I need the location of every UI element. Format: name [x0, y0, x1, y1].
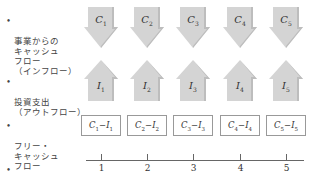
- subscript: 2: [149, 20, 153, 27]
- bullet: •: [6, 165, 11, 173]
- free-cash-flow-box: C4−I4: [220, 115, 260, 136]
- free-cash-flow-box: C1−I1: [81, 115, 121, 136]
- subscript: 5: [288, 20, 292, 27]
- subscript: 5: [286, 86, 290, 93]
- symbol: C: [187, 14, 195, 25]
- subscript: 1: [103, 20, 107, 27]
- row-label-time: • 時点（t）: [6, 155, 53, 173]
- symbol: C: [141, 14, 149, 25]
- subscript: 2: [156, 126, 160, 132]
- bullet: •: [6, 121, 11, 131]
- subscript: 5: [295, 126, 299, 132]
- outflow-symbol: I3: [173, 80, 213, 93]
- outflow-symbol: I5: [266, 80, 306, 93]
- timeline-tick-label: 2: [142, 163, 154, 173]
- subscript: 3: [193, 86, 197, 93]
- timeline-axis: [86, 160, 304, 161]
- subscript: 1: [110, 126, 114, 132]
- timeline-tick-label: 3: [188, 163, 200, 173]
- bullet: •: [6, 16, 11, 26]
- inflow-symbol: C5: [266, 14, 306, 27]
- outflow-symbol: I4: [220, 80, 260, 93]
- subscript: 2: [147, 86, 151, 93]
- subscript: 4: [240, 86, 244, 93]
- outflow-symbol: I2: [127, 80, 167, 93]
- outflow-symbol: I1: [81, 80, 121, 93]
- subscript: 3: [202, 126, 206, 132]
- inflow-symbol: C4: [220, 14, 260, 27]
- free-cash-flow-box: C3−I3: [173, 115, 213, 136]
- symbol: C: [95, 14, 103, 25]
- symbol: C: [234, 14, 242, 25]
- timeline-tick-label: 4: [235, 163, 247, 173]
- subscript: 1: [101, 86, 105, 93]
- inflow-symbol: C2: [127, 14, 167, 27]
- subscript: 4: [242, 20, 246, 27]
- subscript: 3: [195, 20, 199, 27]
- inflow-symbol: C3: [173, 14, 213, 27]
- free-cash-flow-box: C5−I5: [266, 115, 306, 136]
- bullet: •: [6, 77, 11, 87]
- free-cash-flow-box: C2−I2: [127, 115, 167, 136]
- timeline-tick-label: 5: [281, 163, 293, 173]
- symbol: C: [280, 14, 288, 25]
- subscript: 4: [249, 126, 253, 132]
- inflow-symbol: C1: [81, 14, 121, 27]
- timeline-tick-label: 1: [96, 163, 108, 173]
